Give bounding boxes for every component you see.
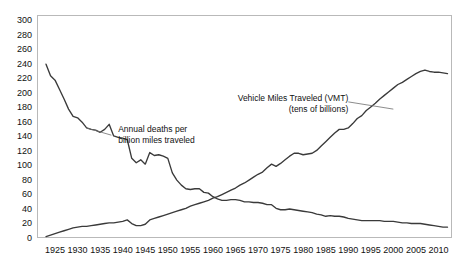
y-tick-label: 0 (2, 234, 32, 243)
vmt-annotation-line2: (tens of billions) (204, 104, 348, 115)
y-tick-label: 80 (2, 176, 32, 185)
y-tick-label: 60 (2, 190, 32, 199)
y-tick-label: 140 (2, 132, 32, 141)
deaths-annotation-line2: billion miles traveled (118, 135, 195, 146)
y-tick-label: 100 (2, 161, 32, 170)
y-tick-label: 300 (2, 16, 32, 25)
chart-canvas (0, 0, 466, 274)
y-tick-label: 220 (2, 74, 32, 83)
plot-frame (38, 16, 452, 238)
y-tick-label: 120 (2, 147, 32, 156)
y-tick-label: 20 (2, 219, 32, 228)
deaths-annotation: Annual deaths per billion miles traveled (118, 124, 195, 146)
x-tick-label: 2010 (424, 246, 452, 255)
y-tick-label: 160 (2, 118, 32, 127)
y-tick-label: 280 (2, 31, 32, 40)
deaths-annotation-line1: Annual deaths per (118, 124, 195, 135)
y-tick-label: 200 (2, 89, 32, 98)
y-tick-label: 260 (2, 45, 32, 54)
y-tick-label: 180 (2, 103, 32, 112)
vmt-annotation: Vehicle Miles Traveled (VMT) (tens of bi… (204, 93, 348, 115)
y-tick-label: 40 (2, 205, 32, 214)
chart-container: 3002802602402202001801601401201008060402… (0, 0, 466, 274)
y-tick-label: 240 (2, 60, 32, 69)
vmt-annotation-line1: Vehicle Miles Traveled (VMT) (204, 93, 348, 104)
